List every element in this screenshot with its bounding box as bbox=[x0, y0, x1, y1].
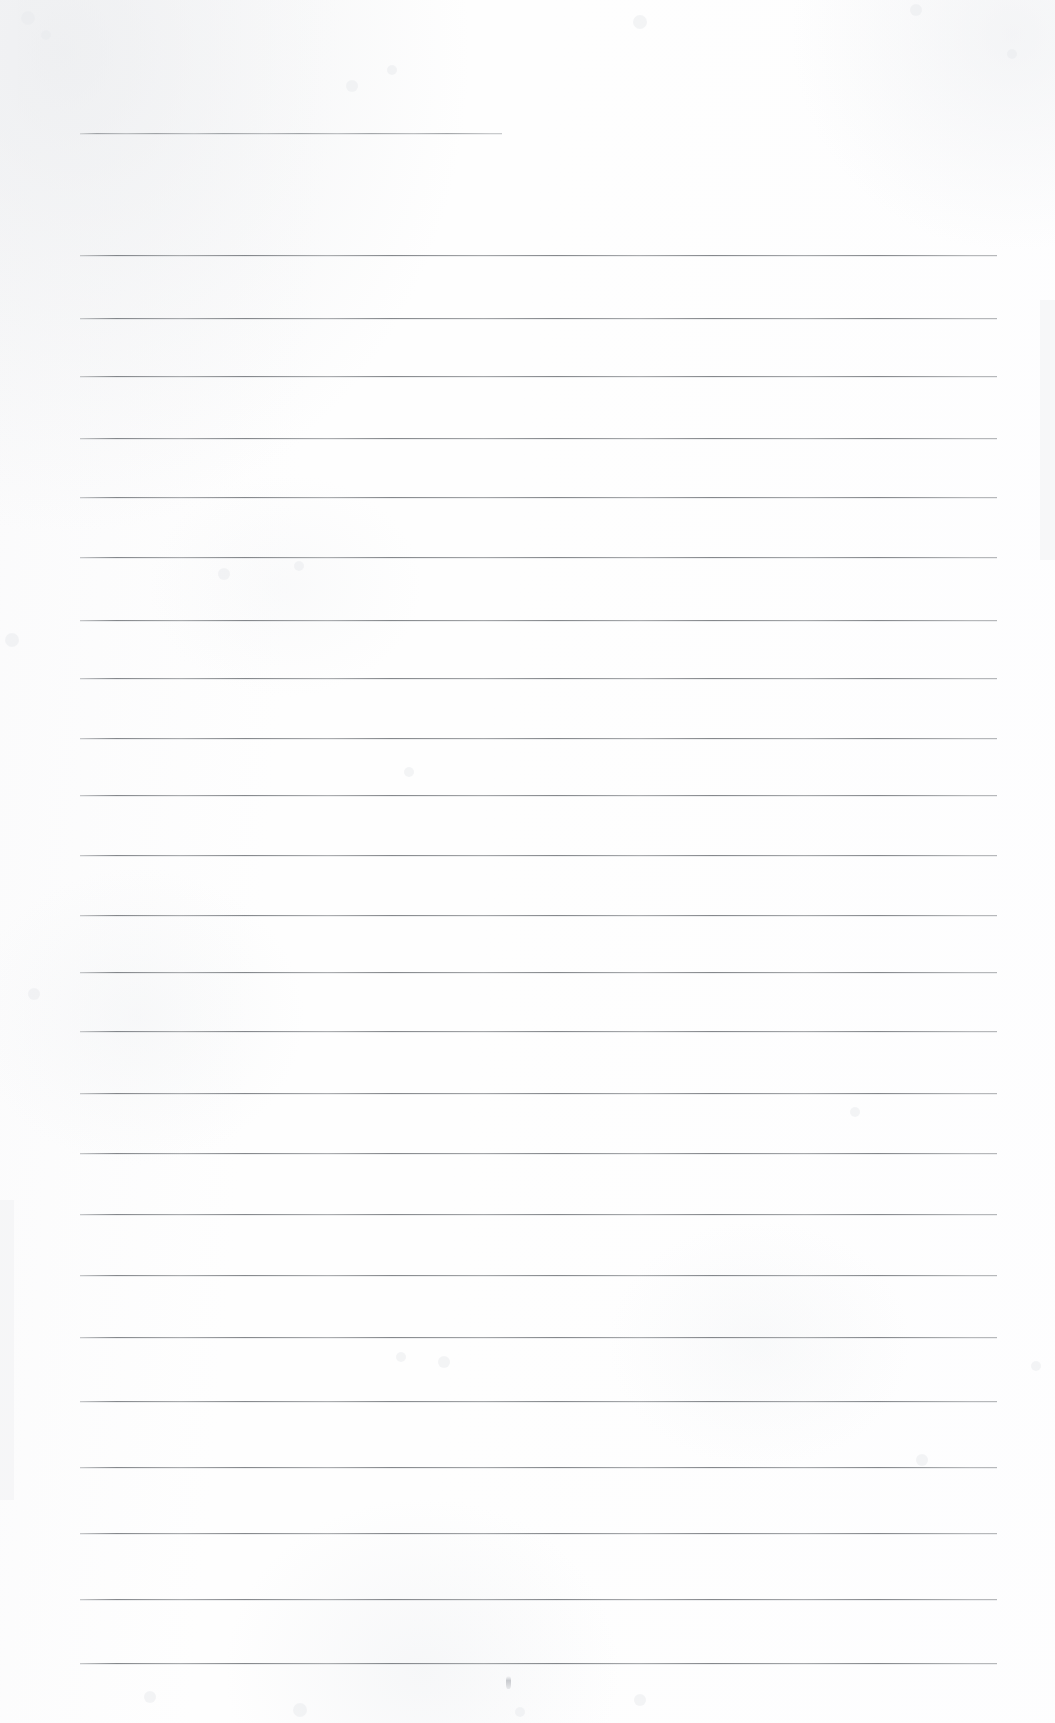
body-rule-23 bbox=[80, 1599, 997, 1600]
body-rule-22 bbox=[80, 1533, 997, 1534]
body-rule-11 bbox=[80, 855, 997, 856]
body-rule-6 bbox=[80, 557, 997, 558]
body-rule-16 bbox=[80, 1153, 997, 1154]
body-rule-8 bbox=[80, 678, 997, 679]
body-rule-10 bbox=[80, 795, 997, 796]
body-rule-4 bbox=[80, 438, 997, 439]
body-rule-17 bbox=[80, 1214, 997, 1215]
body-rule-20 bbox=[80, 1401, 997, 1402]
body-rule-2 bbox=[80, 318, 997, 319]
scan-noise-overlay bbox=[0, 0, 1055, 1723]
body-rule-5 bbox=[80, 497, 997, 498]
ink-speck bbox=[506, 1676, 511, 1689]
body-rule-7 bbox=[80, 620, 997, 621]
body-rule-14 bbox=[80, 1031, 997, 1032]
scanned-page bbox=[0, 0, 1055, 1723]
body-rule-19 bbox=[80, 1337, 997, 1338]
body-rule-12 bbox=[80, 915, 997, 916]
body-rule-21 bbox=[80, 1467, 997, 1468]
body-rule-9 bbox=[80, 738, 997, 739]
paper-texture bbox=[0, 0, 1055, 1723]
body-rule-15 bbox=[80, 1093, 997, 1094]
body-rule-13 bbox=[80, 972, 997, 973]
body-rule-3 bbox=[80, 376, 997, 377]
body-rule-24 bbox=[80, 1663, 997, 1664]
body-rule-18 bbox=[80, 1275, 997, 1276]
heading-rule bbox=[80, 133, 502, 134]
body-rule-1 bbox=[80, 255, 997, 256]
